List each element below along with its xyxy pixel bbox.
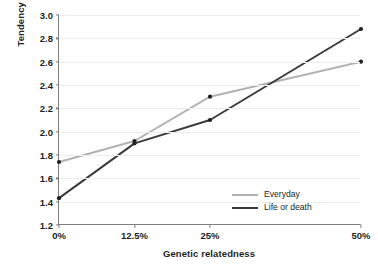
y-tick-label: 1.2 <box>40 220 53 231</box>
x-tick-mark <box>360 224 361 228</box>
y-tick-label: 1.6 <box>40 173 53 184</box>
y-tick-mark <box>56 38 60 39</box>
x-tick-label: 0% <box>52 230 66 241</box>
data-point-marker <box>57 160 61 164</box>
y-tick-mark <box>56 178 60 179</box>
y-tick-mark <box>56 14 60 15</box>
x-tick-label: 12.5% <box>121 230 148 241</box>
legend-line-icon <box>232 207 258 209</box>
y-tick-label: 1.8 <box>40 150 53 161</box>
x-axis-title: Genetic relatedness <box>58 248 360 259</box>
y-gridline <box>59 132 360 133</box>
data-point-marker <box>57 196 61 200</box>
legend-line-icon <box>232 194 258 196</box>
series-line <box>59 29 361 198</box>
series-layer <box>59 15 361 225</box>
legend-item[interactable]: Everyday <box>232 188 312 201</box>
y-tick-mark <box>56 84 60 85</box>
data-point-marker <box>208 118 212 122</box>
y-gridline <box>59 108 360 109</box>
y-gridline <box>59 62 360 63</box>
x-tick-mark <box>58 224 59 228</box>
data-point-marker <box>359 27 363 31</box>
y-tick-label: 1.4 <box>40 196 53 207</box>
y-tick-label: 2.4 <box>40 80 53 91</box>
series-line <box>59 62 361 162</box>
y-tick-label: 3.0 <box>40 10 53 21</box>
y-tick-label: 2.2 <box>40 103 53 114</box>
x-tick-mark <box>134 224 135 228</box>
y-tick-mark <box>56 61 60 62</box>
y-gridline <box>59 178 360 179</box>
y-gridline <box>59 15 360 16</box>
y-tick-mark <box>56 154 60 155</box>
data-point-marker <box>132 141 136 145</box>
y-tick-mark <box>56 201 60 202</box>
x-tick-label: 50% <box>351 230 370 241</box>
y-tick-mark <box>56 131 60 132</box>
y-gridline <box>59 155 360 156</box>
y-tick-mark <box>56 108 60 109</box>
legend-label: Life or death <box>264 201 312 214</box>
x-tick-label: 25% <box>200 230 219 241</box>
y-gridline <box>59 202 360 203</box>
x-tick-mark <box>209 224 210 228</box>
data-point-marker <box>208 95 212 99</box>
y-tick-label: 2.8 <box>40 33 53 44</box>
chart-legend: EverydayLife or death <box>232 188 312 214</box>
plot-area: 1.21.41.61.82.02.22.42.62.83.00%12.5%25%… <box>58 15 360 225</box>
y-axis-title: Tendency to help <box>14 0 28 72</box>
chart-figure: Tendency to help 1.21.41.61.82.02.22.42.… <box>0 0 378 275</box>
legend-label: Everyday <box>264 188 300 201</box>
y-gridline <box>59 38 360 39</box>
y-gridline <box>59 85 360 86</box>
y-tick-label: 2.6 <box>40 56 53 67</box>
legend-item[interactable]: Life or death <box>232 201 312 214</box>
y-tick-label: 2.0 <box>40 126 53 137</box>
